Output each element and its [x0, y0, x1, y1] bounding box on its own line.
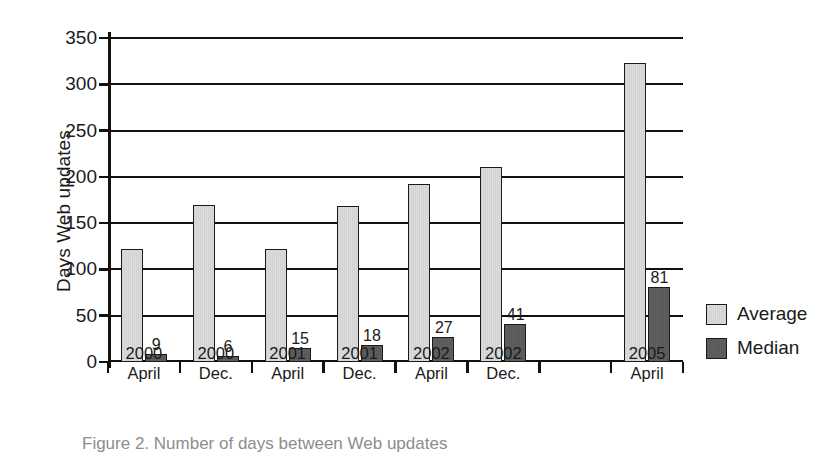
gridline: [108, 37, 683, 39]
y-axis-tick-label: 300: [65, 73, 97, 95]
legend-swatch-avg: [706, 304, 727, 325]
bar-average: [624, 63, 646, 362]
x-axis-category-month: Dec.: [455, 363, 551, 383]
legend-label: Average: [737, 303, 807, 325]
gridline: [108, 83, 683, 85]
bar-average: [408, 184, 430, 362]
y-axis-tick: [99, 176, 110, 179]
bar-value-label: 81: [651, 269, 669, 287]
y-axis-tick-label: 350: [65, 27, 97, 49]
x-axis-category-year: 2005: [599, 343, 695, 363]
bar-average: [480, 167, 502, 362]
chart-legend: AverageMedian: [706, 297, 821, 365]
bar-average: [337, 206, 359, 362]
y-axis-tick: [99, 37, 110, 40]
y-axis-tick-label: 50: [76, 304, 97, 326]
chart-figure: Days Web updates 050100150200250300350 9…: [0, 0, 823, 452]
y-axis-tick: [99, 268, 110, 271]
y-axis-tick-label: 250: [65, 119, 97, 141]
gridline: [108, 176, 683, 178]
y-axis-tick-label: 200: [65, 166, 97, 188]
y-axis-tick-label: 100: [65, 258, 97, 280]
x-axis-category-year: 2002: [455, 343, 551, 363]
y-axis-tick-label: 150: [65, 212, 97, 234]
plot-area: 050100150200250300350 961518274181: [108, 38, 683, 362]
bar-value-label: 41: [507, 306, 525, 324]
legend-item: Median: [706, 331, 821, 365]
figure-caption: Figure 2. Number of days between Web upd…: [82, 434, 447, 452]
y-axis-tick: [99, 222, 110, 225]
legend-item: Average: [706, 297, 821, 331]
x-axis-category-label: 2005April: [599, 343, 695, 383]
legend-swatch-med: [706, 338, 727, 359]
legend-label: Median: [737, 337, 799, 359]
x-axis-category-label: 2002Dec.: [455, 343, 551, 383]
y-axis-tick: [99, 314, 110, 317]
x-axis-category-month: April: [599, 363, 695, 383]
y-axis-tick: [99, 129, 110, 132]
gridline: [108, 130, 683, 132]
bar-average: [193, 205, 215, 362]
y-axis-tick: [99, 83, 110, 86]
bar-value-label: 27: [435, 319, 453, 337]
